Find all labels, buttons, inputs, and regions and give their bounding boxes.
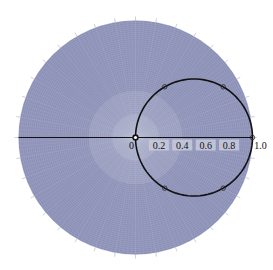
angle-tick	[75, 33, 77, 36]
radial-tick-label: 0.8	[223, 140, 236, 151]
angle-tick	[114, 253, 115, 257]
angle-tick	[31, 77, 34, 79]
radial-tick-label: 1.0	[254, 140, 267, 151]
radial-tick-label: 0.4	[176, 140, 189, 151]
angle-tick	[176, 247, 177, 251]
angle-tick	[16, 116, 20, 117]
radial-tick-label: 0.6	[199, 140, 212, 151]
polar-plot-svg: 00.20.40.60.81.0	[0, 0, 273, 270]
angle-tick	[194, 239, 196, 242]
angle-tick	[237, 77, 240, 79]
angle-tick	[237, 196, 240, 198]
angle-tick	[31, 196, 34, 198]
angle-tick	[225, 213, 228, 216]
origin-marker-center	[134, 136, 137, 139]
angle-tick	[194, 33, 196, 36]
angle-tick	[156, 18, 157, 22]
angle-tick	[75, 239, 77, 242]
polar-chart: 00.20.40.60.81.0	[0, 0, 273, 270]
angle-tick	[211, 227, 214, 230]
angle-tick	[251, 116, 255, 117]
angle-tick	[43, 213, 46, 216]
radial-tick-label: 0	[129, 140, 134, 151]
angle-tick	[176, 24, 177, 28]
angle-tick	[58, 45, 61, 48]
angle-tick	[225, 60, 228, 63]
angle-tick	[245, 96, 249, 97]
angle-tick	[22, 178, 26, 179]
angle-tick	[43, 60, 46, 63]
angle-tick	[211, 45, 214, 48]
angle-tick	[94, 247, 95, 251]
radial-tick-label: 0.2	[153, 140, 166, 151]
angle-tick	[245, 178, 249, 179]
angle-tick	[251, 158, 255, 159]
angle-tick	[156, 253, 157, 257]
angle-tick	[94, 24, 95, 28]
angle-tick	[114, 18, 115, 22]
angle-tick	[16, 158, 20, 159]
angle-tick	[22, 96, 26, 97]
angle-tick	[58, 227, 61, 230]
